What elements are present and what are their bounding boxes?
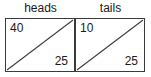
- cell-tails: 10 25: [75, 18, 145, 72]
- cell-grid: 40 25 10 25: [5, 18, 145, 72]
- column-header-heads: heads: [6, 1, 75, 16]
- cell-heads: 40 25: [5, 18, 75, 72]
- cell-heads-upper-value: 40: [10, 22, 23, 34]
- split-cell-diagram: heads tails 40 25 10 25: [0, 0, 151, 77]
- cell-tails-lower-value: 25: [125, 55, 138, 67]
- column-header-tails: tails: [76, 1, 145, 16]
- cell-tails-upper-value: 10: [80, 22, 93, 34]
- cell-heads-lower-value: 25: [55, 55, 68, 67]
